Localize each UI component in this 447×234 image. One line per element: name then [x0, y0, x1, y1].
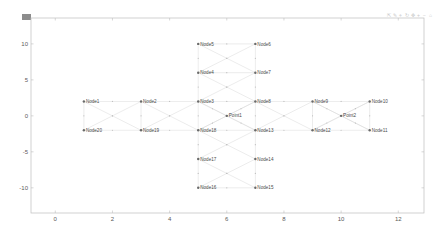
node-label: Node10 — [372, 99, 389, 104]
graph-node[interactable]: Node14 — [254, 157, 274, 162]
graph-node[interactable]: Node18 — [197, 128, 217, 133]
edge-weight-marker — [312, 115, 313, 116]
edge-weight-marker — [198, 58, 199, 59]
edge-weight-marker — [341, 101, 342, 102]
node-marker-icon — [197, 187, 199, 189]
graph-node[interactable]: Node7 — [254, 70, 271, 75]
node-marker-icon — [197, 43, 199, 45]
edge-weight-marker — [198, 173, 199, 174]
node-marker-icon — [340, 115, 342, 117]
node-label: Node7 — [257, 70, 271, 75]
graph-node[interactable]: Node19 — [140, 128, 160, 133]
node-label: Node1 — [86, 99, 100, 104]
graph-node[interactable]: Node17 — [197, 157, 217, 162]
node-label: Node15 — [257, 185, 274, 190]
graph-node[interactable]: Node1 — [83, 99, 100, 104]
node-marker-icon — [254, 43, 256, 45]
graph-node[interactable]: Node4 — [197, 70, 214, 75]
graph-node[interactable]: Node13 — [254, 128, 274, 133]
edge-weight-marker — [226, 43, 227, 44]
edge-weight-marker — [255, 173, 256, 174]
y-axis-ticks: 1050-5-10 — [19, 41, 424, 191]
y-tick-label: 10 — [21, 41, 28, 47]
graph-node[interactable]: Node9 — [311, 99, 328, 104]
node-label: Node12 — [315, 128, 332, 133]
edge-weight-marker — [255, 144, 256, 145]
x-tick-label: 4 — [168, 216, 172, 222]
node-label: Node13 — [257, 128, 274, 133]
edge-weight-marker — [198, 86, 199, 87]
graph-node[interactable]: Point2 — [340, 113, 357, 118]
graph-nodes: Node1Node20Node2Node19Node3Node18Node4No… — [83, 42, 389, 191]
edge-weight-marker — [355, 108, 356, 109]
graph-node[interactable]: Node10 — [368, 99, 388, 104]
node-label: Node19 — [143, 128, 160, 133]
node-label: Node11 — [372, 128, 388, 133]
node-marker-icon — [368, 129, 370, 131]
y-tick-label: 5 — [25, 77, 29, 83]
node-label: Node5 — [200, 42, 214, 47]
node-label: Node17 — [200, 157, 217, 162]
node-marker-icon — [254, 158, 256, 160]
edge-weight-marker — [226, 101, 227, 102]
node-label: Node8 — [257, 99, 271, 104]
graph-node[interactable]: Node3 — [197, 99, 214, 104]
y-tick-label: 0 — [25, 113, 29, 119]
x-axis-ticks: 024681012 — [54, 18, 403, 222]
edge-weight-marker — [212, 122, 213, 123]
graph-node[interactable]: Node15 — [254, 185, 274, 190]
graph-node[interactable]: Node12 — [311, 128, 331, 133]
edge-weight-marker — [140, 115, 141, 116]
x-tick-label: 0 — [54, 216, 58, 222]
node-label: Node16 — [200, 185, 217, 190]
graph-node[interactable]: Node20 — [83, 128, 103, 133]
node-marker-icon — [197, 100, 199, 102]
edge-weight-marker — [112, 115, 113, 116]
node-label: Point2 — [343, 113, 356, 118]
node-label: Node20 — [86, 128, 103, 133]
y-tick-label: -5 — [23, 149, 29, 155]
edge-weight-marker — [226, 86, 227, 87]
node-marker-icon — [226, 115, 228, 117]
edge-weight-marker — [198, 144, 199, 145]
graph-node[interactable]: Node16 — [197, 185, 217, 190]
edge-weight-marker — [226, 58, 227, 59]
node-marker-icon — [254, 187, 256, 189]
node-label: Node4 — [200, 70, 214, 75]
graph-node[interactable]: Point1 — [226, 113, 243, 118]
node-label: Node2 — [143, 99, 157, 104]
x-tick-label: 2 — [111, 216, 115, 222]
graph-node[interactable]: Node5 — [197, 42, 214, 47]
node-label: Node18 — [200, 128, 217, 133]
node-label: Node9 — [315, 99, 329, 104]
edge-weight-marker — [341, 130, 342, 131]
edge-weight-marker — [112, 130, 113, 131]
y-tick-label: -10 — [19, 185, 28, 191]
edge-weight-marker — [255, 58, 256, 59]
node-marker-icon — [254, 71, 256, 73]
edge-weight-marker — [169, 115, 170, 116]
edge-weight-marker — [355, 122, 356, 123]
node-marker-icon — [140, 100, 142, 102]
node-marker-icon — [197, 129, 199, 131]
graph-node[interactable]: Node11 — [368, 128, 387, 133]
edge-weight-marker — [112, 101, 113, 102]
edge-weight-marker — [83, 115, 84, 116]
x-tick-label: 10 — [338, 216, 345, 222]
axes: 024681012 1050-5-10 — [19, 18, 424, 222]
node-marker-icon — [311, 129, 313, 131]
graph-node[interactable]: Node8 — [254, 99, 271, 104]
graph-node[interactable]: Node2 — [140, 99, 157, 104]
edge-weight-marker — [169, 101, 170, 102]
graph-node[interactable]: Node6 — [254, 42, 271, 47]
edge-weight-marker — [226, 173, 227, 174]
node-marker-icon — [254, 129, 256, 131]
node-marker-icon — [83, 129, 85, 131]
x-tick-label: 6 — [225, 216, 229, 222]
node-label: Node3 — [200, 99, 214, 104]
node-marker-icon — [83, 100, 85, 102]
edge-weight-marker — [226, 130, 227, 131]
edge-weight-marker — [283, 101, 284, 102]
node-marker-icon — [311, 100, 313, 102]
edge-weight-marker — [283, 130, 284, 131]
